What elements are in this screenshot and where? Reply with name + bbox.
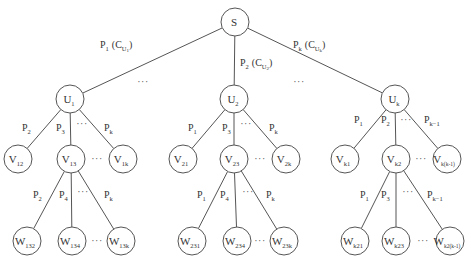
edge-U1-V13 bbox=[70, 113, 71, 145]
edge-label: P2 bbox=[33, 189, 42, 202]
edge-V13-W134 bbox=[71, 173, 72, 227]
edge-label: P1 bbox=[188, 122, 197, 135]
node-W23k: W23k bbox=[270, 227, 298, 255]
node-V23: V23 bbox=[220, 145, 248, 173]
node-label: S bbox=[231, 16, 237, 28]
ellipsis-icon: ··· bbox=[76, 118, 88, 129]
node-W231: W231 bbox=[178, 227, 206, 255]
edge-U2-V21 bbox=[192, 110, 225, 149]
ellipsis-icon: ··· bbox=[137, 76, 149, 87]
node-Vkk-1: Vk(k-1) bbox=[433, 145, 461, 173]
node-Wk2k-1: Wk2(k-1) bbox=[434, 227, 464, 255]
edge-label: Pk(CUk) bbox=[293, 39, 325, 53]
ellipsis-icon: ··· bbox=[402, 186, 414, 197]
edge-label: Pk−1 bbox=[424, 114, 440, 127]
ellipsis-icon: ··· bbox=[91, 235, 103, 246]
node-Vk2: Vk2 bbox=[382, 145, 410, 173]
node-U1: U1 bbox=[56, 85, 84, 113]
edge-label: P4 bbox=[59, 189, 69, 202]
node-V21: V21 bbox=[169, 145, 197, 173]
node-V1k: V1k bbox=[109, 145, 137, 173]
edge-S-Uk bbox=[248, 28, 383, 93]
ellipsis-icon: ··· bbox=[400, 114, 412, 125]
edge-Uk-Vk2 bbox=[395, 113, 396, 145]
node-W13k: W13k bbox=[107, 227, 135, 255]
ellipsis-icon: ··· bbox=[242, 186, 254, 197]
edge-label: Pk bbox=[269, 122, 279, 135]
node-W234: W234 bbox=[223, 227, 251, 255]
edge-label: P4 bbox=[220, 189, 230, 202]
ellipsis-icon: ··· bbox=[91, 153, 103, 164]
ellipsis-icon: ··· bbox=[254, 235, 266, 246]
node-W134: W134 bbox=[58, 227, 86, 255]
edge-label: P1 bbox=[354, 114, 363, 127]
ellipsis-icon: ··· bbox=[293, 76, 305, 87]
node-S: S bbox=[221, 8, 249, 36]
edge-V23-W234 bbox=[235, 173, 237, 227]
edge-label: P3 bbox=[56, 122, 65, 135]
edge-S-U2 bbox=[234, 36, 235, 85]
edge-label: P2 bbox=[381, 114, 390, 127]
edge-label: P1 bbox=[360, 189, 369, 202]
edge-label: P3 bbox=[222, 122, 231, 135]
edge-S-U1 bbox=[83, 28, 223, 93]
node-W132: W132 bbox=[13, 227, 41, 255]
node-V13: V13 bbox=[57, 145, 85, 173]
ellipsis-icon: ··· bbox=[240, 118, 252, 129]
edge-label: P1 bbox=[197, 189, 206, 202]
edge-label: P1(CU1) bbox=[100, 39, 132, 53]
node-Wk23: Wk23 bbox=[382, 227, 410, 255]
edge-label: Pk bbox=[266, 189, 276, 202]
edge-label: Pk bbox=[104, 122, 114, 135]
ellipsis-icon: ··· bbox=[254, 153, 266, 164]
tree-diagram: P1(CU1)P2(CU2)Pk(CUk)P2P3PkP1P3PkP1P2Pk−… bbox=[0, 0, 468, 258]
node-Uk: Uk bbox=[381, 85, 409, 113]
ellipsis-icon: ··· bbox=[415, 153, 427, 164]
node-Wk21: Wk21 bbox=[341, 227, 369, 255]
node-V12: V12 bbox=[4, 145, 32, 173]
ellipsis-icon: ··· bbox=[417, 235, 429, 246]
edge-label: Pk bbox=[104, 189, 114, 202]
node-U2: U2 bbox=[220, 85, 248, 113]
ellipsis-icon: ··· bbox=[77, 186, 89, 197]
node-Vk1: Vk1 bbox=[331, 145, 359, 173]
edge-label: P2 bbox=[22, 122, 31, 135]
edge-V13-W13k bbox=[78, 171, 113, 229]
node-V2k: V2k bbox=[272, 145, 300, 173]
edge-label: P3 bbox=[381, 189, 390, 202]
edge-label: Pk−1 bbox=[427, 189, 443, 202]
edge-label: P2(CU2) bbox=[240, 57, 272, 71]
